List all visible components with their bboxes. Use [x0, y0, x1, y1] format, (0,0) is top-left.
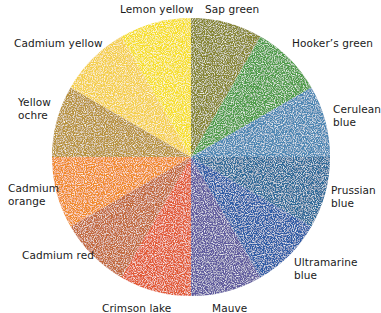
- label-line: Prussian: [331, 184, 376, 197]
- label-line: Cadmium red: [22, 249, 94, 262]
- label-line: blue: [333, 116, 381, 129]
- label-line: Ultramarine: [294, 256, 358, 269]
- label-cadmium-yellow: Cadmium yellow: [14, 37, 103, 50]
- label-line: Hooker’s green: [292, 37, 373, 50]
- label-line: Sap green: [205, 3, 259, 16]
- label-line: Lemon yellow: [120, 3, 194, 16]
- label-prussian-blue: Prussianblue: [331, 184, 376, 210]
- label-line: Crimson lake: [102, 302, 171, 313]
- label-line: Cadmium yellow: [14, 37, 103, 50]
- label-line: Cadmium: [8, 182, 59, 195]
- label-line: orange: [8, 195, 59, 208]
- label-hooker-s-green: Hooker’s green: [292, 37, 373, 50]
- label-line: Mauve: [212, 302, 247, 313]
- label-ultramarine-blue: Ultramarineblue: [294, 256, 358, 282]
- label-cadmium-red: Cadmium red: [22, 249, 94, 262]
- label-line: blue: [331, 197, 376, 210]
- label-line: blue: [294, 269, 358, 282]
- label-crimson-lake: Crimson lake: [102, 302, 171, 313]
- label-cadmium-orange: Cadmiumorange: [8, 182, 59, 208]
- label-line: Cerulean: [333, 103, 381, 116]
- label-mauve: Mauve: [212, 302, 247, 313]
- label-line: ochre: [18, 109, 51, 122]
- label-yellow-ochre: Yellowochre: [18, 96, 51, 122]
- label-cerulean-blue: Ceruleanblue: [333, 103, 381, 129]
- label-lemon-yellow: Lemon yellow: [120, 3, 194, 16]
- label-sap-green: Sap green: [205, 3, 259, 16]
- label-line: Yellow: [18, 96, 51, 109]
